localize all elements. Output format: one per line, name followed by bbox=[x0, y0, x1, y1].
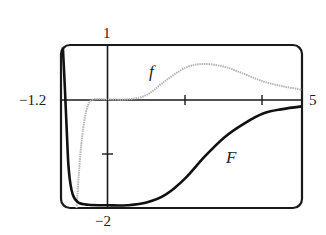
series-F-label: F bbox=[226, 149, 236, 166]
x-max-label: 5 bbox=[309, 93, 317, 108]
series-F-line bbox=[63, 48, 302, 206]
series-f-label: f bbox=[149, 63, 154, 80]
chart-canvas bbox=[0, 0, 326, 235]
x-min-label: −1.2 bbox=[19, 93, 46, 108]
series-f-line bbox=[77, 64, 303, 208]
y-min-label: −2 bbox=[95, 214, 111, 229]
y-max-label: 1 bbox=[103, 26, 111, 41]
